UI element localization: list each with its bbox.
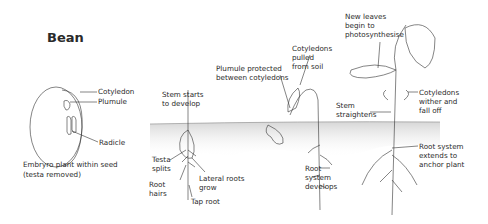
label-cotyledons-pulled: Cotyledons pulled from soil <box>292 44 332 71</box>
label-tap-root: Tap root <box>191 197 220 206</box>
label-stem-straightens: Stem straightens <box>336 101 377 119</box>
label-cotyledons-wither: Cotyledons wither and fall off <box>419 88 459 115</box>
label-cotyledon: Cotyledon <box>98 87 134 96</box>
label-testa-splits: Testa splits <box>152 155 171 173</box>
label-radicle: Radicle <box>99 138 125 147</box>
label-plumule: Plumule <box>98 97 127 106</box>
seed-caption-line1: Embryro plant within seed <box>23 160 118 169</box>
label-stem-starts: Stem starts to develop <box>162 90 204 108</box>
seedling-drawing <box>350 25 435 215</box>
label-lateral-roots: Lateral roots grow <box>199 174 244 192</box>
soil-layer <box>150 122 440 158</box>
label-root-system-develops: Root system develops <box>305 164 337 191</box>
seed-caption-line2: (testa removed) <box>23 170 81 179</box>
seed-drawing <box>30 87 98 167</box>
label-root-system-extends: Root system extends to anchor plant <box>419 142 464 169</box>
label-root-hairs: Root hairs <box>149 180 167 198</box>
label-plumule-protected: Plumule protected between cotyledons <box>216 64 288 82</box>
label-new-leaves: New leaves begin to photosynthesise <box>345 12 404 39</box>
